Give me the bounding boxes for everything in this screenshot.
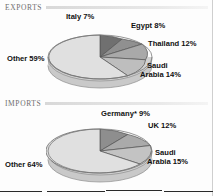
pie-slices-imports (46, 129, 152, 173)
label-saudi-line1: Saudi (147, 61, 168, 70)
label-uk: UK 12% (148, 121, 176, 130)
section-rule-imports (45, 102, 208, 105)
chart-page: EXPORTS (0, 0, 213, 196)
label-other: Other 59% (7, 54, 45, 63)
bottom-edge-mark (0, 191, 42, 192)
label-saudi-line2: Arabia 14% (140, 70, 181, 79)
section-title-exports: EXPORTS (5, 3, 46, 12)
label-saudi-line1-imports: Saudi (155, 148, 176, 157)
label-saudi-line2-imports: Arabia 15% (147, 157, 188, 166)
pie-chart-exports: Italy 7% Egypt 8% Thailand 12% Saudi Ara… (0, 12, 213, 98)
label-thailand: Thailand 12% (148, 39, 197, 48)
bottom-edge-mark (106, 190, 162, 191)
bottom-edge-mark (47, 191, 105, 192)
label-other-imports: Other 64% (5, 160, 43, 169)
section-header-exports: EXPORTS (5, 3, 208, 12)
pie-chart-imports: Germany* 9% UK 12% Saudi Arabia 15% Othe… (0, 106, 213, 194)
pie-graphic-exports (46, 26, 154, 96)
section-rule-exports (46, 6, 208, 9)
pie-graphic-imports (46, 120, 154, 190)
bottom-edge-mark (164, 191, 213, 192)
label-italy: Italy 7% (66, 12, 94, 21)
label-egypt: Egypt 8% (131, 21, 165, 30)
label-germany: Germany* 9% (101, 109, 150, 118)
